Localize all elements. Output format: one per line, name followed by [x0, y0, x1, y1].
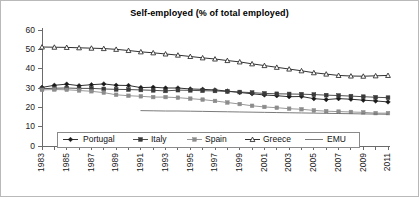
- marker-italy-5: [102, 87, 106, 91]
- x-tick-label-2009: 2009: [358, 153, 368, 172]
- line-chart-plot: 0102030405060198319851987198919911993199…: [1, 1, 419, 197]
- y-tick-label-10: 10: [26, 121, 36, 131]
- marker-portugal-7: [126, 83, 131, 88]
- marker-spain-24: [337, 110, 341, 114]
- x-tick-label-2011: 2011: [382, 153, 392, 172]
- legend-label-portugal[interactable]: Portugal: [83, 134, 115, 144]
- marker-spain-10: [164, 95, 168, 99]
- marker-portugal-23: [324, 97, 329, 102]
- marker-spain-22: [312, 109, 316, 113]
- marker-spain-11: [176, 96, 180, 100]
- marker-spain-5: [102, 91, 106, 95]
- marker-italy-9: [151, 88, 155, 92]
- marker-italy-16: [238, 90, 242, 94]
- marker-italy-21: [300, 92, 304, 96]
- marker-spain-17: [250, 104, 254, 108]
- legend-label-emu[interactable]: EMU: [327, 134, 346, 144]
- marker-spain-4: [90, 89, 94, 93]
- marker-spain-18: [263, 105, 267, 109]
- marker-spain-25: [349, 110, 353, 114]
- marker-italy-24: [337, 94, 341, 98]
- marker-italy-25: [349, 94, 353, 98]
- series-line-greece: [42, 47, 388, 76]
- marker-italy-8: [139, 88, 143, 92]
- marker-portugal-28: [386, 100, 391, 105]
- marker-spain-3: [77, 89, 81, 93]
- x-tick-label-2005: 2005: [308, 153, 318, 172]
- y-tick-label-50: 50: [26, 44, 36, 54]
- x-tick-label-1989: 1989: [110, 153, 120, 172]
- marker-portugal-22: [312, 96, 317, 101]
- marker-italy-28: [386, 96, 390, 100]
- marker-italy-6: [114, 87, 118, 91]
- legend-label-italy[interactable]: Italy: [151, 134, 167, 144]
- x-tick-label-1987: 1987: [86, 153, 96, 172]
- x-tick-label-2003: 2003: [283, 153, 293, 172]
- y-tick-label-60: 60: [26, 25, 36, 35]
- marker-spain-9: [151, 95, 155, 99]
- marker-italy-12: [188, 88, 192, 92]
- marker-spain-21: [300, 107, 304, 111]
- marker-spain-19: [275, 106, 279, 110]
- x-tick-label-2001: 2001: [259, 153, 269, 172]
- y-tick-label-40: 40: [26, 63, 36, 73]
- y-tick-label-0: 0: [30, 141, 35, 151]
- marker-italy-7: [127, 88, 131, 92]
- marker-italy-19: [275, 92, 279, 96]
- marker-portugal-2: [64, 82, 69, 87]
- x-tick-label-1995: 1995: [185, 153, 195, 172]
- legend-marker-italy: [139, 138, 143, 142]
- marker-spain-15: [226, 101, 230, 105]
- x-tick-label-1999: 1999: [234, 153, 244, 172]
- marker-italy-10: [164, 89, 168, 93]
- marker-spain-1: [53, 88, 57, 92]
- marker-italy-23: [324, 93, 328, 97]
- marker-spain-23: [324, 109, 328, 113]
- marker-spain-14: [213, 99, 217, 103]
- x-tick-label-1985: 1985: [61, 153, 71, 172]
- marker-italy-20: [287, 92, 291, 96]
- marker-italy-13: [201, 89, 205, 93]
- marker-spain-0: [40, 88, 44, 92]
- marker-spain-16: [238, 102, 242, 106]
- x-tick-label-2007: 2007: [333, 153, 343, 172]
- marker-portugal-6: [114, 83, 119, 88]
- marker-italy-27: [374, 95, 378, 99]
- marker-spain-2: [65, 88, 69, 92]
- marker-spain-8: [139, 95, 143, 99]
- marker-portugal-5: [101, 82, 106, 87]
- marker-italy-26: [361, 95, 365, 99]
- x-tick-label-1983: 1983: [36, 153, 46, 172]
- legend-label-greece[interactable]: Greece: [263, 134, 291, 144]
- marker-spain-13: [201, 98, 205, 102]
- x-tick-label-1991: 1991: [135, 153, 145, 172]
- marker-italy-22: [312, 93, 316, 97]
- x-tick-label-1997: 1997: [209, 153, 219, 172]
- marker-spain-20: [287, 107, 291, 111]
- legend-marker-spain: [193, 138, 197, 142]
- marker-italy-17: [250, 91, 254, 95]
- marker-italy-14: [213, 89, 217, 93]
- marker-italy-18: [263, 92, 267, 96]
- y-tick-label-30: 30: [26, 83, 36, 93]
- marker-spain-12: [188, 97, 192, 101]
- marker-italy-11: [176, 88, 180, 92]
- marker-spain-7: [127, 94, 131, 98]
- legend-label-spain[interactable]: Spain: [205, 134, 227, 144]
- y-tick-label-20: 20: [26, 102, 36, 112]
- chart-figure: Self-employed (% of total employed) 0102…: [0, 0, 419, 197]
- x-tick-label-1993: 1993: [160, 153, 170, 172]
- marker-italy-15: [225, 90, 229, 94]
- marker-spain-6: [114, 93, 118, 97]
